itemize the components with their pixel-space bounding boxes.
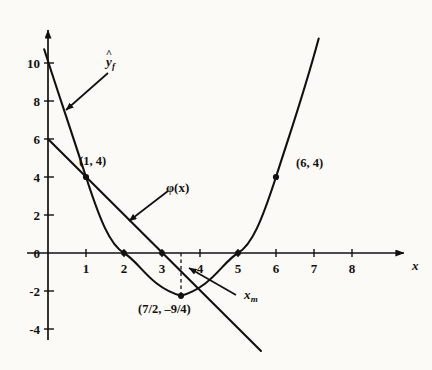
marker-root-2 [121,250,127,256]
y-tick-label-8: 8 [34,95,41,108]
marker-point-6-4 [273,174,279,180]
y-tick-label-neg2: -2 [29,285,40,298]
leader-arrow-parabola-label [129,191,168,221]
x-axis-label: x [412,259,419,272]
x-tick-label-1: 1 [83,262,90,275]
label-x-m: xm [244,288,258,304]
point-label-6-4: (6, 4) [296,157,323,170]
plot-canvas [0,0,432,370]
y-tick-label-2: 2 [34,209,41,222]
y-tick-label-neg4: -4 [29,323,40,336]
x-tick-label-6: 6 [273,262,280,275]
x-tick-label-5: 5 [235,262,242,275]
y-tick-label-4: 4 [34,171,41,184]
marker-root-5 [235,250,241,256]
marker-root-3 [159,250,165,256]
marker-point-1-4 [83,174,89,180]
leader-arrow-line-label [66,73,108,110]
point-label-vertex: (7/2, –9/4) [138,303,191,316]
x-tick-label-2: 2 [121,262,128,275]
curve-label-yhat-f: ^yf [106,55,115,71]
y-tick-label-0: 0 [34,247,41,260]
curve-label-phi: φ(x) [166,181,189,194]
label-x-m-subscript: m [251,294,258,304]
yhat-glyph: ^y [106,55,112,68]
y-axis-ticks [44,63,54,329]
y-tick-label-6: 6 [34,133,41,146]
linear-curve [48,139,261,351]
x-tick-label-7: 7 [311,262,318,275]
point-label-1-4: (1, 4) [79,155,106,168]
x-tick-label-8: 8 [349,262,356,275]
hat-accent-icon: ^ [106,48,112,59]
y-tick-label-10: 10 [27,57,40,70]
x-tick-label-3: 3 [159,262,166,275]
label-x-m-base: x [244,287,251,302]
figure-container: 10 8 6 4 2 0 -2 -4 1 2 3 4 5 6 7 8 x ^yf… [0,0,432,370]
marker-vertex [178,293,184,299]
x-tick-label-4: 4 [197,262,204,275]
curve-label-yhat-subscript: f [112,61,115,71]
